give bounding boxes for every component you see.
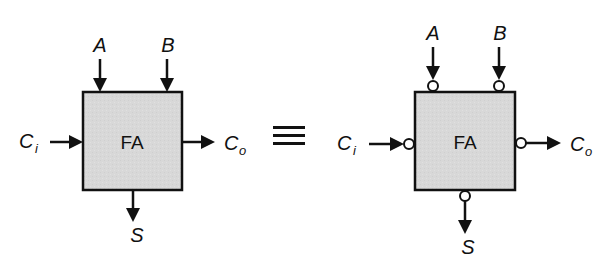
svg-text:i: i <box>353 143 357 158</box>
svg-text:C: C <box>19 130 34 152</box>
fa-label: FA <box>453 132 477 153</box>
input-ci-inverted-arrow-icon <box>369 137 414 151</box>
output-co-inverted-arrow-icon <box>516 136 561 150</box>
input-b-label: B <box>493 22 506 44</box>
full-adder-diagram: FA A B C i C o <box>0 0 615 257</box>
input-b-label: B <box>161 34 174 56</box>
output-co-label: C o <box>224 132 246 158</box>
svg-text:i: i <box>35 141 39 156</box>
input-a-arrow-icon <box>93 59 107 92</box>
left-full-adder: FA A B C i C o <box>19 34 246 246</box>
svg-text:C: C <box>224 132 239 154</box>
input-ci-label: C i <box>337 132 357 158</box>
output-co-label: C o <box>570 133 592 159</box>
equivalence-icon <box>273 126 305 145</box>
input-a-label: A <box>92 34 106 56</box>
output-s-label: S <box>461 236 475 257</box>
input-b-inverted-arrow-icon <box>492 47 506 91</box>
input-a-label: A <box>425 22 439 44</box>
input-a-inverted-arrow-icon <box>426 47 440 91</box>
fa-label: FA <box>120 132 144 153</box>
right-full-adder: FA A B C i <box>337 22 592 257</box>
output-s-label: S <box>130 224 144 246</box>
svg-text:o: o <box>239 143 246 158</box>
output-s-arrow-icon <box>126 190 140 222</box>
input-ci-arrow-icon <box>50 135 83 149</box>
svg-text:C: C <box>570 133 585 155</box>
input-b-arrow-icon <box>160 59 174 92</box>
output-s-inverted-arrow-icon <box>458 191 472 234</box>
svg-text:o: o <box>585 144 592 159</box>
input-ci-label: C i <box>19 130 39 156</box>
output-co-arrow-icon <box>182 135 215 149</box>
svg-text:C: C <box>337 132 352 154</box>
